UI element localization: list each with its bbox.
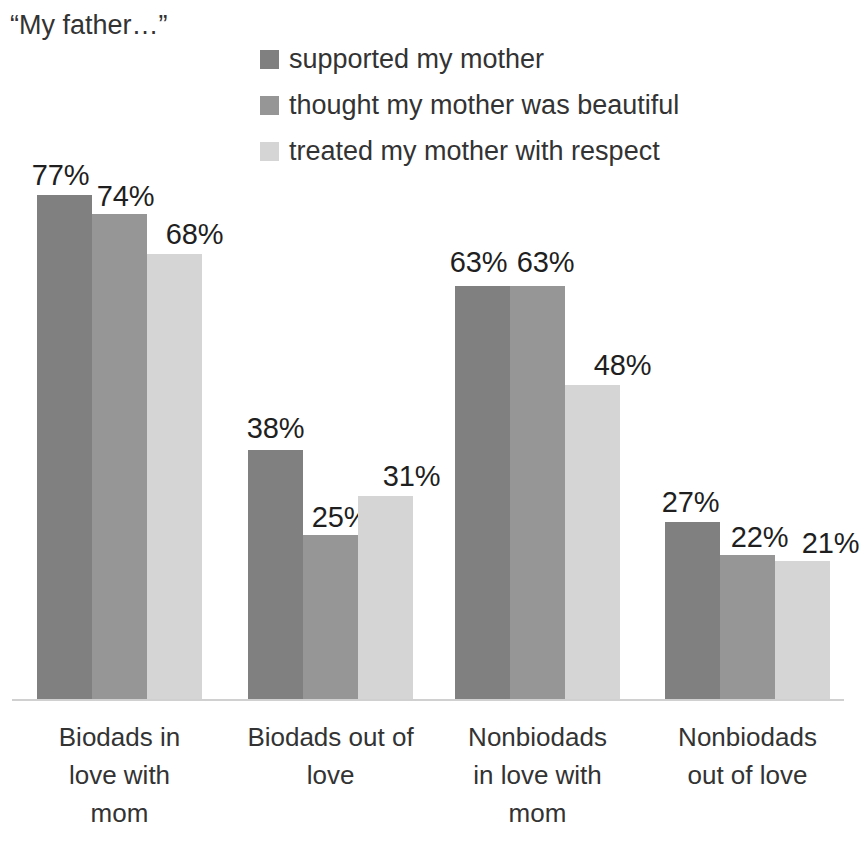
bar-slot xyxy=(510,147,565,699)
category-axis-label-line: love xyxy=(234,756,427,794)
category-axis-label: Biodads out oflove xyxy=(234,718,427,794)
category-axis-label: Nonbiodadsin love withmom xyxy=(441,718,634,832)
bar-group: 38%25%31% xyxy=(248,147,413,699)
bar-slot xyxy=(720,147,775,699)
bar-group: 27%22%21% xyxy=(665,147,830,699)
bar[interactable] xyxy=(248,450,303,699)
category-axis-label-line: mom xyxy=(441,794,634,832)
bar-slot xyxy=(358,147,413,699)
bar-group: 77%74%68% xyxy=(37,147,202,699)
category-axis-label-line: Biodads out of xyxy=(234,718,427,756)
category-axis-label-line: Biodads in xyxy=(23,718,216,756)
bar-group: 63%63%48% xyxy=(455,147,620,699)
bar[interactable] xyxy=(455,286,510,699)
bar[interactable] xyxy=(665,522,720,699)
category-axis-label: Nonbiodadsout of love xyxy=(651,718,844,794)
category-axis-label-line: mom xyxy=(23,794,216,832)
bar[interactable] xyxy=(147,254,202,699)
bar[interactable] xyxy=(720,555,775,699)
bar-group-bars xyxy=(37,147,202,699)
bar[interactable] xyxy=(37,195,92,699)
bar[interactable] xyxy=(565,385,620,699)
bar-slot xyxy=(37,147,92,699)
category-axis-label-line: love with xyxy=(23,756,216,794)
bar-slot xyxy=(665,147,720,699)
category-axis-label-line: out of love xyxy=(651,756,844,794)
bar[interactable] xyxy=(358,496,413,699)
bar-slot xyxy=(455,147,510,699)
category-axis-line xyxy=(12,699,844,701)
category-axis-label-line: Nonbiodads xyxy=(441,718,634,756)
bar[interactable] xyxy=(92,214,147,699)
bar-group-bars xyxy=(665,147,830,699)
bar[interactable] xyxy=(775,561,830,699)
bar-slot xyxy=(303,147,358,699)
bar-slot xyxy=(775,147,830,699)
bar-group-bars xyxy=(248,147,413,699)
bar-slot xyxy=(565,147,620,699)
bar-slot xyxy=(92,147,147,699)
bar-group-bars xyxy=(455,147,620,699)
category-axis-label-line: in love with xyxy=(441,756,634,794)
bar[interactable] xyxy=(303,535,358,699)
category-axis-label: Biodads inlove withmom xyxy=(23,718,216,832)
bar[interactable] xyxy=(510,286,565,699)
bar-slot xyxy=(248,147,303,699)
bar-slot xyxy=(147,147,202,699)
category-axis-label-line: Nonbiodads xyxy=(651,718,844,756)
